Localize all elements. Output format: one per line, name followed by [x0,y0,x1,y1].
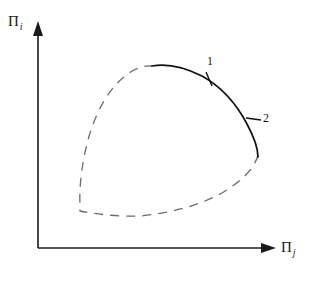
tick-mark-2 [246,118,261,120]
y-axis-subscript: i [19,21,23,32]
diagram-canvas [0,0,312,281]
point-label-1: 1 [207,55,213,67]
point-label-2: 2 [263,112,269,124]
y-axis-label: Πi [8,14,23,32]
figure-container: Πi Πj 1 2 [0,0,312,281]
y-axis-symbol: Π [8,13,19,29]
x-axis-label: Πj [281,240,296,258]
x-axis-subscript: j [292,247,296,258]
x-axis-symbol: Π [281,239,292,255]
solid-curve [152,65,258,157]
y-axis-arrowhead [33,21,43,36]
x-axis-arrowhead [261,243,276,253]
dashed-curve [80,66,258,216]
